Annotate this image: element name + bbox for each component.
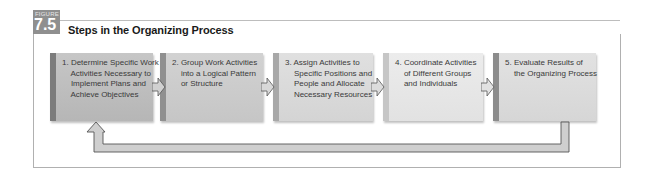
figure-badge: FIGURE 7.5 bbox=[33, 10, 60, 34]
figure-number: 7.5 bbox=[34, 17, 56, 33]
step-text: 1. Determine Specific Work Activities Ne… bbox=[62, 58, 159, 100]
step-text: 5. Evaluate Results of the Organizing Pr… bbox=[505, 58, 597, 79]
step-text: 4. Coordinate Activities of Different Gr… bbox=[395, 58, 476, 90]
step-box-5: 5. Evaluate Results of the Organizing Pr… bbox=[493, 53, 596, 121]
arrow-right-icon bbox=[481, 77, 495, 97]
arrow-right-icon bbox=[152, 77, 166, 97]
feedback-loop-arrow-icon bbox=[85, 120, 575, 156]
step-box-4: 4. Coordinate Activities of Different Gr… bbox=[383, 53, 483, 121]
step-box-3: 3. Assign Activities to Specific Positio… bbox=[273, 53, 373, 121]
arrow-right-icon bbox=[371, 77, 385, 97]
step-text: 2. Group Work Activities into a Logical … bbox=[172, 58, 257, 90]
step-box-2: 2. Group Work Activities into a Logical … bbox=[160, 53, 263, 121]
arrow-right-icon bbox=[261, 77, 275, 97]
step-text: 3. Assign Activities to Specific Positio… bbox=[285, 58, 372, 100]
title-rule bbox=[60, 20, 620, 21]
step-box-1: 1. Determine Specific Work Activities Ne… bbox=[50, 53, 153, 121]
